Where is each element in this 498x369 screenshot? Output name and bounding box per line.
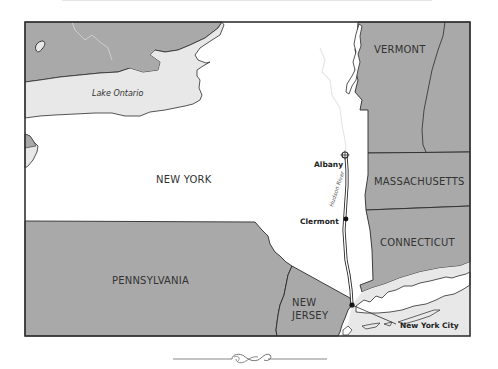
label-vermont: VERMONT [374, 44, 426, 55]
label-new-york: NEW YORK [156, 174, 212, 185]
clermont-marker[interactable] [344, 217, 349, 222]
label-pennsylvania: PENNSYLVANIA [112, 275, 189, 286]
label-connecticut: CONNECTICUT [380, 237, 455, 248]
new-york-map: NEW YORK VERMONT MASSACHUSETTS CONNECTIC… [0, 0, 498, 369]
label-clermont: Clermont [300, 217, 339, 226]
label-lake-ontario: Lake Ontario [92, 89, 143, 98]
vermont-region [355, 22, 470, 153]
label-new-jersey-2: JERSEY [291, 310, 329, 321]
label-new-jersey-1: NEW [292, 297, 316, 308]
label-albany: Albany [314, 160, 343, 169]
ornament-divider [173, 354, 327, 363]
label-massachusetts: MASSACHUSETTS [374, 176, 465, 187]
label-new-york-city: New York City [400, 321, 459, 330]
